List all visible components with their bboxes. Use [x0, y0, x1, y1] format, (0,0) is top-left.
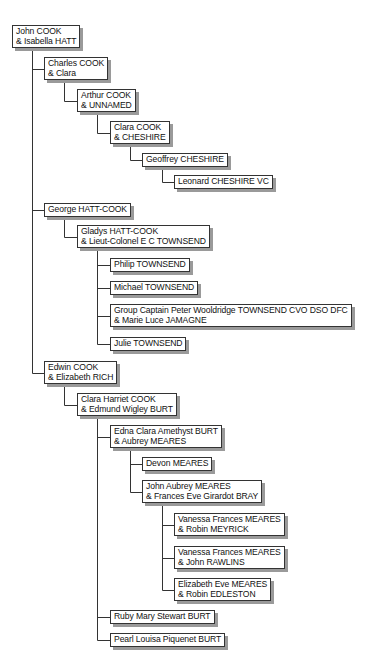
person-node: John Aubrey MEARES& Frances Eve Girardot…: [142, 480, 262, 503]
connector-line: [163, 503, 175, 559]
connector-line: [163, 503, 175, 591]
connector-line: [65, 217, 78, 238]
person-node: Charles COOK& Clara: [44, 57, 108, 80]
person-node: Philip TOWNSEND: [110, 258, 190, 272]
person-node: Vanessa Frances MEARES& Robin MEYRICK: [174, 513, 285, 536]
person-node: Edwin COOK& Elizabeth RICH: [44, 361, 117, 384]
connector-line: [98, 112, 111, 134]
spouse-name: & Lieut-Colonel E C TOWNSEND: [81, 237, 206, 247]
connector-line: [98, 248, 111, 289]
connector-line: [98, 248, 111, 266]
connector-line: [98, 416, 111, 641]
person-node: Elizabeth Eve MEARES& Robin EDLESTON: [174, 578, 271, 601]
person-node: John COOK& Isabella HATT: [12, 25, 80, 48]
person-node: Arthur COOK& UNNAMED: [77, 89, 136, 112]
spouse-name: & Clara: [48, 69, 104, 79]
person-name: Pearl Louisa Piquenet BURT: [114, 635, 221, 645]
spouse-name: & Robin EDLESTON: [178, 590, 267, 600]
spouse-name: & Marie Luce JAMAGNE: [114, 316, 348, 326]
person-name: Geoffrey CHESHIRE: [146, 155, 224, 165]
person-name: Julie TOWNSEND: [114, 339, 182, 349]
person-node: Gladys HATT-COOK& Lieut-Colonel E C TOWN…: [77, 225, 210, 248]
connector-line: [131, 448, 143, 493]
person-node: Julie TOWNSEND: [110, 337, 186, 351]
spouse-name: & Robin MEYRICK: [178, 525, 281, 535]
connector-line: [131, 144, 143, 161]
spouse-name: & CHESHIRE: [114, 133, 166, 143]
person-node: Geoffrey CHESHIRE: [142, 153, 228, 167]
person-node: Leonard CHESHIRE VC: [174, 175, 273, 189]
connector-line: [65, 80, 78, 102]
spouse-name: & UNNAMED: [81, 101, 132, 111]
person-name: Ruby Mary Stewart BURT: [114, 612, 211, 622]
connector-line: [163, 167, 175, 183]
person-node: George HATT-COOK: [44, 203, 131, 217]
person-node: Clara COOK& CHESHIRE: [110, 121, 170, 144]
connector-line: [65, 384, 78, 406]
connector-line: [33, 48, 45, 211]
connector-line: [33, 48, 45, 70]
connector-lines: [0, 0, 367, 670]
spouse-name: & Edmund Wigley BURT: [81, 405, 173, 415]
person-node: Clara Harriet COOK& Edmund Wigley BURT: [77, 393, 177, 416]
person-name: Devon MEARES: [146, 459, 208, 469]
person-node: Group Captain Peter Wooldridge TOWNSEND …: [110, 304, 352, 327]
spouse-name: & Isabella HATT: [16, 37, 76, 47]
spouse-name: & John RAWLINS: [178, 558, 281, 568]
person-node: Michael TOWNSEND: [110, 281, 198, 295]
person-name: George HATT-COOK: [48, 205, 127, 215]
person-node: Edna Clara Amethyst BURT& Aubrey MEARES: [110, 425, 222, 448]
person-node: Pearl Louisa Piquenet BURT: [110, 633, 225, 647]
connector-line: [98, 248, 111, 317]
connector-line: [98, 248, 111, 345]
person-node: Devon MEARES: [142, 457, 212, 471]
person-name: Leonard CHESHIRE VC: [178, 177, 269, 187]
person-node: Vanessa Frances MEARES& John RAWLINS: [174, 546, 285, 569]
family-tree-diagram: John COOK& Isabella HATTCharles COOK& Cl…: [0, 0, 367, 670]
person-name: Michael TOWNSEND: [114, 283, 194, 293]
spouse-name: & Aubrey MEARES: [114, 437, 218, 447]
connector-line: [98, 416, 111, 618]
person-node: Ruby Mary Stewart BURT: [110, 610, 215, 624]
connector-line: [98, 416, 111, 438]
spouse-name: & Frances Eve Girardot BRAY: [146, 492, 258, 502]
connector-line: [131, 448, 143, 465]
spouse-name: & Elizabeth RICH: [48, 373, 113, 383]
person-name: Philip TOWNSEND: [114, 260, 186, 270]
connector-line: [163, 503, 175, 526]
